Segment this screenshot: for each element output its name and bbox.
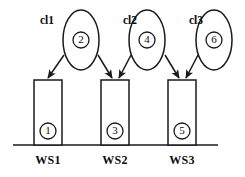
task-circle-label-2: 2 bbox=[78, 33, 84, 45]
task-circle-label-3: 3 bbox=[112, 124, 118, 136]
workstation-label-ws2: WS2 bbox=[102, 153, 127, 167]
cluster-label-cl1: cl1 bbox=[40, 14, 54, 26]
task-circle-label-5: 5 bbox=[179, 124, 185, 136]
workstation-cluster-diagram: 1 3 5 2 4 6 cl1 cl2 cl3 WS1 WS2 WS3 bbox=[0, 0, 245, 177]
arrow-ws3-left bbox=[165, 55, 179, 78]
cluster-label-cl3: cl3 bbox=[189, 14, 203, 26]
workstation-label-ws1: WS1 bbox=[35, 153, 60, 167]
diagram-canvas: 1 3 5 2 4 6 cl1 cl2 cl3 WS1 WS2 WS3 bbox=[0, 0, 245, 177]
cluster-label-cl2: cl2 bbox=[123, 14, 137, 26]
arrow-cl3-to-ws3 bbox=[186, 55, 198, 78]
arrow-ws2-left bbox=[98, 55, 112, 78]
arrow-cl1-to-ws1 bbox=[48, 55, 64, 78]
task-circle-label-1: 1 bbox=[45, 124, 51, 136]
arrow-cl2-to-ws2 bbox=[119, 55, 131, 78]
task-circle-label-6: 6 bbox=[211, 33, 217, 45]
workstation-label-ws3: WS3 bbox=[169, 153, 194, 167]
task-circle-label-4: 4 bbox=[144, 33, 150, 45]
